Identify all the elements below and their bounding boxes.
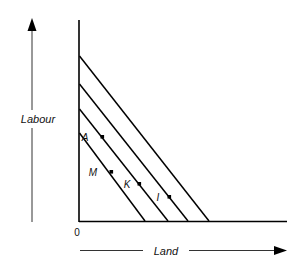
point-marker-k xyxy=(138,182,142,186)
y-axis-label: Labour xyxy=(21,113,57,125)
point-label-a: A xyxy=(81,132,89,143)
economics-isoquant-figure: A M K I 0 Labour Land xyxy=(0,0,299,273)
land-axis-indicator xyxy=(80,246,287,255)
origin-label: 0 xyxy=(74,227,80,238)
point-label-m: M xyxy=(89,167,98,178)
plot-axes xyxy=(79,20,287,222)
budget-line-4 xyxy=(80,56,210,221)
point-label-k: K xyxy=(124,179,132,190)
right-arrow-icon xyxy=(274,246,287,255)
point-label-i: I xyxy=(157,192,160,203)
budget-line-3 xyxy=(80,84,189,221)
up-arrow-icon xyxy=(28,18,37,31)
budget-line-2 xyxy=(80,109,169,221)
x-axis-label: Land xyxy=(154,245,179,257)
point-marker-a xyxy=(101,135,105,139)
budget-lines-group xyxy=(80,56,210,221)
point-marker-i xyxy=(168,195,172,199)
technique-points-group xyxy=(101,135,172,199)
point-marker-m xyxy=(110,170,114,174)
